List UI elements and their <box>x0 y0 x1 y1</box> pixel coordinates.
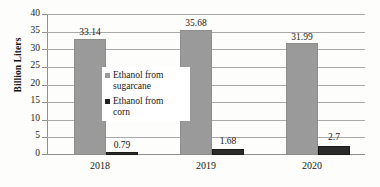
plot-area: 33.14 35.68 31.99 0.79 1.68 2.7 <box>47 14 365 155</box>
legend-item-corn[interactable]: Ethanol fromcorn <box>105 96 188 118</box>
y-tick-mark <box>42 137 47 138</box>
black-square-icon <box>105 99 110 104</box>
data-label-sugarcane-2018: 33.14 <box>62 27 118 37</box>
x-tick-label-2018: 2018 <box>47 160 153 171</box>
gray-square-icon <box>105 73 110 78</box>
y-tick-mark <box>42 49 47 50</box>
legend-label-line2: corn <box>113 107 130 117</box>
legend-item-sugarcane[interactable]: Ethanol fromsugarcane <box>105 70 188 92</box>
legend-label-line1: Ethanol from <box>113 70 163 80</box>
y-tick-mark <box>42 120 47 121</box>
bar-chart: Billion Liters 40 35 30 25 20 15 10 5 0 <box>0 0 380 187</box>
data-label-corn-2018: 0.79 <box>99 140 145 150</box>
y-tick-label: 30 <box>14 44 40 54</box>
data-label-sugarcane-2020: 31.99 <box>274 32 330 42</box>
y-tick-label: 25 <box>14 61 40 71</box>
legend-label-corn: Ethanol fromcorn <box>113 96 163 118</box>
bar-corn-2019 <box>212 149 244 155</box>
y-tick-label: 20 <box>14 79 40 89</box>
y-tick-mark <box>42 85 47 86</box>
y-tick-label: 15 <box>14 96 40 106</box>
y-tick-label: 0 <box>14 149 40 159</box>
y-tick-mark <box>42 32 47 33</box>
data-label-corn-2019: 1.68 <box>205 136 251 146</box>
y-tick-label: 10 <box>14 114 40 124</box>
bar-corn-2020 <box>318 146 350 156</box>
y-tick-label: 5 <box>14 131 40 141</box>
x-tick-label-2020: 2020 <box>259 160 365 171</box>
data-label-corn-2020: 2.7 <box>311 132 357 142</box>
chart-legend: Ethanol fromsugarcane Ethanol fromcorn <box>102 67 190 121</box>
y-tick-label: 35 <box>14 26 40 36</box>
y-tick-mark <box>42 102 47 103</box>
gridline-40 <box>47 14 365 15</box>
legend-label-sugarcane: Ethanol fromsugarcane <box>113 70 163 92</box>
legend-label-line2: sugarcane <box>113 81 151 91</box>
y-tick-label: 40 <box>14 9 40 19</box>
x-tick-label-2019: 2019 <box>153 160 259 171</box>
y-tick-mark <box>42 14 47 15</box>
data-label-sugarcane-2019: 35.68 <box>168 18 224 28</box>
y-tick-mark <box>42 67 47 68</box>
bar-corn-2018 <box>106 152 138 155</box>
legend-label-line1: Ethanol from <box>113 96 163 106</box>
y-tick-mark <box>42 154 47 155</box>
